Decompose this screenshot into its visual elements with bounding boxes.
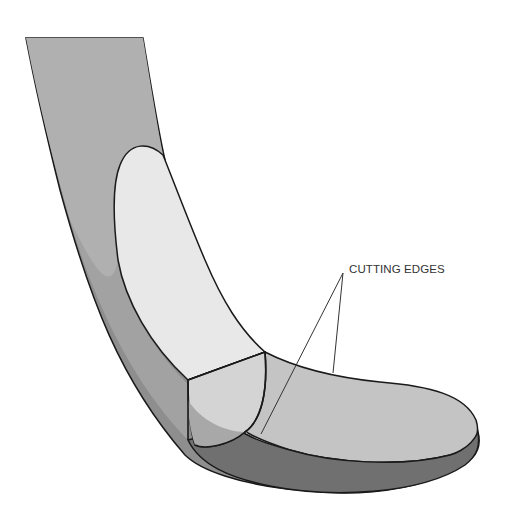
cutting-edges-label: CUTTING EDGES — [349, 263, 445, 275]
leader-line-2 — [333, 273, 343, 373]
